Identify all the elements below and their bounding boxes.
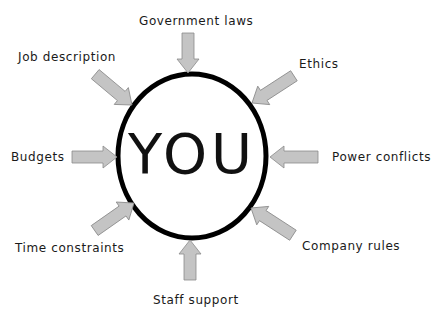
label-ethics: Ethics bbox=[299, 57, 339, 71]
label-budgets: Budgets bbox=[11, 150, 65, 164]
arrow-government-laws bbox=[177, 33, 199, 73]
label-government-laws: Government laws bbox=[139, 14, 253, 28]
arrow-budgets bbox=[72, 146, 117, 168]
label-staff-support: Staff support bbox=[153, 293, 239, 307]
center-label: YOU bbox=[116, 124, 268, 184]
arrow-staff-support bbox=[179, 240, 201, 280]
label-job-description: Job description bbox=[18, 50, 116, 64]
arrow-power-conflicts bbox=[270, 146, 318, 168]
label-time-constraints: Time constraints bbox=[15, 241, 124, 255]
label-power-conflicts: Power conflicts bbox=[332, 150, 431, 164]
arrow-ethics bbox=[246, 67, 300, 113]
label-company-rules: Company rules bbox=[302, 239, 400, 253]
